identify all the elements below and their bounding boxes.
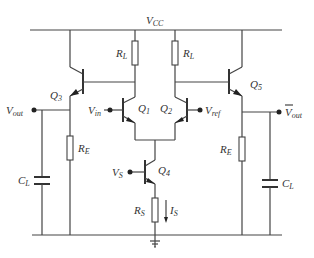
vs-label: VS [112,166,123,180]
capacitor-cl-right [262,112,278,235]
resistor-re-right [239,112,245,235]
resistor-rs [152,198,158,247]
rs-label: RS [133,204,145,218]
resistor-re-left [67,136,73,160]
vout-bar-node [242,110,282,115]
vout-bar-label: Vout [285,106,303,120]
resistor-rl-left [132,30,138,82]
is-label: IS [169,204,178,218]
is-arrow-icon [164,200,168,223]
vout-label: Vout [6,104,24,118]
q5-label: Q5 [250,78,262,92]
q1-label: Q1 [138,102,150,116]
capacitor-cl-left [34,110,50,235]
resistor-rl-right [172,30,178,82]
rl-right-label: RL [182,47,195,61]
q3-label: Q3 [50,89,62,103]
transistor-q5 [175,30,242,112]
cl-right-label: CL [282,177,294,191]
vcc-label: VCC [146,14,164,28]
q4-label: Q4 [158,164,170,178]
transistor-q2 [175,82,203,140]
vout-node [32,108,71,113]
circuit-diagram: VCC RL RL Q3 Q5 [0,0,314,258]
vin-label: Vin [88,104,101,118]
cl-left-label: CL [18,174,30,188]
q2-label: Q2 [160,102,172,116]
transistor-q1 [104,82,135,140]
transistor-q4 [128,160,156,198]
emitter-tie [135,140,175,160]
re-right-label: RE [219,143,232,157]
rl-left-label: RL [115,47,128,61]
vref-label: Vref [205,104,222,118]
re-left-label: RE [77,142,90,156]
